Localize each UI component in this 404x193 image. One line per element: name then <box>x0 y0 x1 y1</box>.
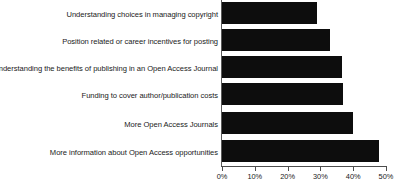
chart-row: Position related or career incentives fo… <box>0 27 404 54</box>
category-label: More information about Open Access oppor… <box>50 147 218 156</box>
chart-plot-area: Understanding choices in managing copyri… <box>0 0 404 166</box>
x-axis-tick-label: 50% <box>379 172 394 181</box>
x-axis-tick-label: 10% <box>247 172 262 181</box>
x-axis-tick <box>288 167 289 171</box>
x-axis-tick <box>386 167 387 171</box>
bar-chart: Understanding choices in managing copyri… <box>0 0 404 193</box>
chart-row: More Open Access Journals <box>0 110 404 137</box>
x-axis-tick-label: 0% <box>217 172 228 181</box>
x-axis-line <box>221 166 387 167</box>
category-label: Understanding the benefits of publishing… <box>0 63 218 72</box>
category-label: More Open Access Journals <box>124 119 218 128</box>
bar <box>222 83 343 105</box>
bar <box>222 29 330 51</box>
bar <box>222 112 353 134</box>
x-axis-tick <box>353 167 354 171</box>
chart-row: Understanding choices in managing copyri… <box>0 0 404 27</box>
x-axis-tick-label: 20% <box>280 172 295 181</box>
y-axis-line <box>221 0 222 167</box>
bar <box>222 56 342 78</box>
chart-row: Funding to cover author/publication cost… <box>0 81 404 108</box>
category-label: Position related or career incentives fo… <box>62 36 218 45</box>
bar <box>222 2 317 24</box>
x-axis-tick <box>255 167 256 171</box>
chart-row: Understanding the benefits of publishing… <box>0 54 404 81</box>
bar <box>222 140 379 162</box>
category-label: Understanding choices in managing copyri… <box>66 9 218 18</box>
category-label: Funding to cover author/publication cost… <box>82 90 218 99</box>
x-axis-tick <box>222 167 223 171</box>
chart-row: More information about Open Access oppor… <box>0 138 404 165</box>
x-axis-tick-label: 30% <box>313 172 328 181</box>
x-axis-tick <box>320 167 321 171</box>
x-axis-tick-label: 40% <box>346 172 361 181</box>
